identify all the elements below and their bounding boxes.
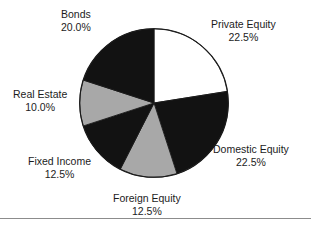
pie-label-domestic-equity: Domestic Equity 22.5% [213, 143, 289, 168]
pie-label-domestic-equity-name: Domestic Equity [213, 143, 289, 156]
pie-label-foreign-equity-name: Foreign Equity [113, 192, 181, 205]
pie-label-domestic-equity-value: 22.5% [213, 156, 289, 169]
pie-label-private-equity-value: 22.5% [211, 31, 276, 44]
pie-label-fixed-income: Fixed Income 12.5% [28, 155, 91, 180]
pie-label-real-estate: Real Estate 10.0% [13, 88, 67, 113]
figure-bottom-rule [0, 218, 311, 219]
pie-label-fixed-income-value: 12.5% [28, 168, 91, 181]
pie-chart-figure: Private Equity 22.5% Domestic Equity 22.… [0, 0, 311, 229]
pie-label-fixed-income-name: Fixed Income [28, 155, 91, 168]
pie-label-real-estate-value: 10.0% [13, 101, 67, 114]
pie-label-foreign-equity: Foreign Equity 12.5% [113, 192, 181, 217]
pie-label-private-equity: Private Equity 22.5% [211, 18, 276, 43]
pie-label-bonds-name: Bonds [61, 8, 91, 21]
pie-label-bonds: Bonds 20.0% [61, 8, 91, 33]
pie-label-private-equity-name: Private Equity [211, 18, 276, 31]
pie-slice-group [80, 29, 229, 178]
pie-label-bonds-value: 20.0% [61, 21, 91, 34]
pie-label-real-estate-name: Real Estate [13, 88, 67, 101]
pie-label-foreign-equity-value: 12.5% [113, 205, 181, 218]
